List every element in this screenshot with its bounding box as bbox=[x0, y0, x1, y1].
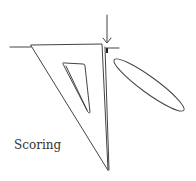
scoring-mark bbox=[106, 48, 108, 53]
scoring-illustration: Scoring bbox=[0, 0, 196, 181]
blade-icon bbox=[110, 53, 189, 116]
set-square-cutout-inner bbox=[66, 66, 87, 110]
caption-label: Scoring bbox=[14, 138, 61, 152]
line-drawing bbox=[0, 0, 196, 181]
